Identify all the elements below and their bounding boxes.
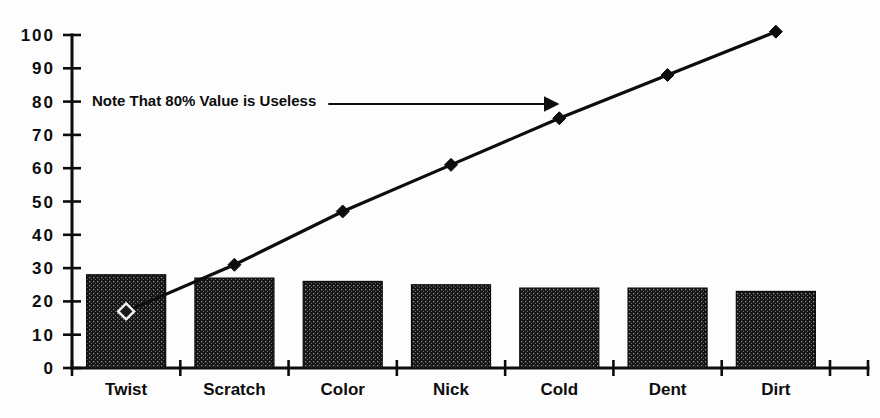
annotation-label: Note That 80% Value is Useless (92, 92, 316, 109)
data-point-scratch (228, 258, 241, 271)
x-tick-label-dirt: Dirt (761, 380, 791, 399)
bar-scratch (195, 278, 274, 368)
bar-series (87, 275, 816, 368)
x-tick-label-color: Color (321, 380, 366, 399)
bar-cold (520, 288, 599, 368)
y-tick-label: 90 (32, 59, 55, 78)
y-tick-label: 20 (32, 292, 55, 311)
annotation-callout: Note That 80% Value is Useless (92, 92, 556, 109)
x-tick-label-cold: Cold (540, 380, 578, 399)
y-axis: 1009080706050403020100 (21, 26, 81, 378)
data-point-dent (661, 68, 674, 81)
data-point-color (336, 205, 349, 218)
pareto-chart: 1009080706050403020100 Note That 80% Val… (0, 0, 880, 418)
bar-nick (411, 285, 490, 368)
bar-dent (628, 288, 707, 368)
y-tick-label: 40 (32, 226, 55, 245)
bar-color (303, 281, 382, 368)
y-tick-label: 30 (32, 259, 55, 278)
x-tick-labels: TwistScratchColorNickColdDentDirt (105, 380, 791, 399)
y-tick-label: 70 (32, 126, 55, 145)
y-tick-label: 100 (21, 26, 55, 45)
data-point-cold (553, 112, 566, 125)
bar-dirt (736, 291, 815, 368)
data-point-dirt (769, 25, 782, 38)
data-point-nick (445, 158, 458, 171)
x-tick-label-twist: Twist (105, 380, 148, 399)
y-tick-label: 10 (32, 326, 55, 345)
x-tick-label-nick: Nick (433, 380, 469, 399)
y-tick-label: 60 (32, 159, 55, 178)
y-tick-label: 0 (44, 359, 55, 378)
chart-canvas: 1009080706050403020100 Note That 80% Val… (0, 0, 880, 418)
y-tick-label: 80 (32, 93, 55, 112)
x-tick-label-scratch: Scratch (203, 380, 265, 399)
y-tick-label: 50 (32, 193, 55, 212)
bar-twist (87, 275, 166, 368)
x-tick-label-dent: Dent (649, 380, 687, 399)
